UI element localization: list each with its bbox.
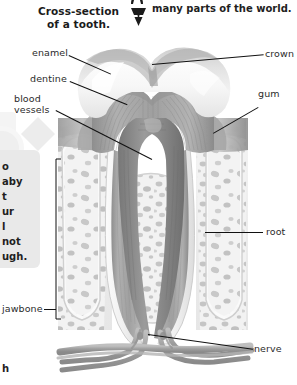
tooth-icon-cut xyxy=(128,0,146,10)
label-crown: crown xyxy=(265,48,294,59)
sidebar-fragment-5: not xyxy=(2,235,21,249)
page-title-line1: Cross-section xyxy=(26,5,131,18)
sidebar-fragment-3: ur xyxy=(2,205,14,219)
label-jawbone: jawbone xyxy=(2,303,43,314)
sidebar-fragment-0: o xyxy=(2,160,9,174)
sidebar-fragment-4: l xyxy=(2,220,5,234)
top-right-cut-line: many parts of the world. xyxy=(152,2,292,16)
sidebar-fragment-6: ugh. xyxy=(2,250,27,264)
label-enamel: enamel xyxy=(32,47,68,58)
label-blood-vessels-line1: blood xyxy=(14,93,41,104)
sidebar-fragment-1: aby xyxy=(2,175,22,189)
label-dentine: dentine xyxy=(30,73,67,84)
jawbone-bracket xyxy=(54,158,62,320)
leader-line-root xyxy=(205,232,263,233)
sidebar-fragment-2: t xyxy=(2,190,7,204)
label-blood-vessels-line2: vessels xyxy=(14,104,50,115)
label-root: root xyxy=(266,226,285,237)
label-nerve: nerve xyxy=(254,343,282,354)
label-gum: gum xyxy=(258,88,280,99)
page-title-line2: of a tooth. xyxy=(26,18,131,31)
bottom-left-fragment: h xyxy=(2,362,9,376)
tooth-diagram-page: o aby t ur l not ugh. h Cross-section of… xyxy=(0,0,297,385)
